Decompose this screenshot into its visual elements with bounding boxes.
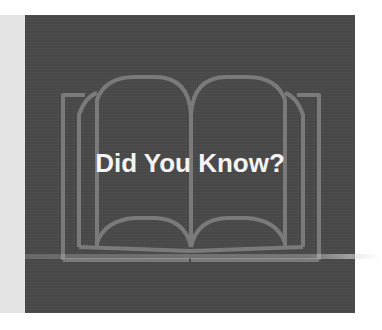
did-you-know-title: Did You Know? — [25, 147, 355, 179]
light-streak — [25, 254, 380, 259]
slide-canvas: Did You Know? — [0, 0, 382, 330]
side-strip — [0, 15, 25, 313]
did-you-know-panel: Did You Know? — [25, 15, 355, 313]
